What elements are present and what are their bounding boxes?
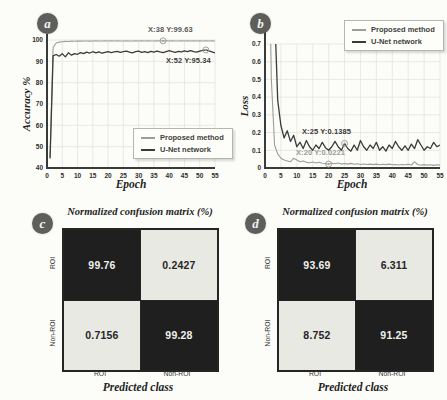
col-label-nonroi: Non-ROI: [379, 370, 406, 377]
svg-text:50: 50: [36, 143, 44, 150]
matrix-cell-nonroi-nonroi: 99.28: [141, 301, 217, 371]
figure-page: 0510152025303540455055405060708090100 a …: [0, 0, 447, 400]
annotation-unet-loss: X:25 Y:0.1385: [302, 127, 351, 136]
svg-text:70: 70: [36, 100, 44, 107]
legend-label-proposed: Proposed method: [371, 25, 435, 34]
svg-text:40: 40: [166, 172, 174, 179]
matrix-cell-roi-nonroi: 6.311: [356, 230, 432, 300]
svg-text:0.5: 0.5: [252, 76, 261, 83]
accuracy-x-axis-label: Epoch: [116, 178, 147, 190]
svg-text:45: 45: [181, 172, 189, 179]
panel-accuracy-chart: 0510152025303540455055405060708090100 a …: [0, 0, 224, 198]
row-label-roi: ROI: [264, 257, 271, 269]
panel-loss-chart: 051015202530354045505500.10.20.30.40.50.…: [224, 0, 447, 198]
loss-x-axis-label: Epoch: [337, 178, 368, 190]
panel-label-a: a: [37, 13, 58, 34]
svg-text:20: 20: [104, 172, 112, 179]
svg-text:50: 50: [420, 172, 428, 179]
svg-text:0: 0: [257, 164, 261, 171]
matrix-cell-nonroi-roi: 0.7156: [64, 301, 140, 371]
annotation-proposed-accuracy: X:38 Y:99.63: [148, 25, 193, 34]
svg-text:5: 5: [60, 172, 64, 179]
proposed-line-swatch: [352, 29, 366, 31]
unet-line-swatch: [141, 149, 155, 151]
svg-text:0.6: 0.6: [252, 58, 261, 65]
accuracy-legend: Proposed method U-Net network: [133, 128, 233, 159]
proposed-line-swatch: [141, 137, 155, 139]
panel-label-d: d: [245, 213, 266, 234]
svg-text:45: 45: [405, 172, 413, 179]
panel-confusion-matrix-d: d Normalized confusion matrix (%) 93.69 …: [224, 198, 447, 400]
matrix-cell-nonroi-roi: 8.752: [279, 301, 355, 371]
panel-confusion-matrix-c: c Normalized confusion matrix (%) 99.76 …: [0, 198, 224, 400]
col-label-roi: ROI: [94, 370, 106, 377]
loss-legend: Proposed method U-Net network: [344, 20, 444, 51]
legend-label-proposed: Proposed method: [160, 133, 224, 142]
svg-text:10: 10: [293, 172, 301, 179]
svg-text:0: 0: [263, 172, 267, 179]
svg-text:0.2: 0.2: [252, 129, 261, 136]
confusion-matrix: 99.76 0.2427 0.7156 99.28: [62, 228, 219, 372]
svg-text:35: 35: [150, 172, 158, 179]
svg-text:5: 5: [279, 172, 283, 179]
legend-item-proposed: Proposed method: [352, 25, 435, 34]
svg-text:0.1: 0.1: [252, 147, 261, 154]
legend-label-unet: U-Net network: [160, 145, 211, 154]
svg-text:40: 40: [389, 172, 397, 179]
matrix-cell-roi-roi: 99.76: [64, 230, 140, 300]
matrix-cell-nonroi-nonroi: 91.25: [356, 301, 432, 371]
matrix-cell-roi-nonroi: 0.2427: [141, 230, 217, 300]
row-label-roi: ROI: [49, 257, 56, 269]
legend-item-proposed: Proposed method: [141, 133, 224, 142]
predicted-class-label: Predicted class: [103, 381, 174, 393]
svg-text:35: 35: [373, 172, 381, 179]
svg-text:10: 10: [74, 172, 82, 179]
predicted-class-label: Predicted class: [318, 381, 389, 393]
svg-text:55: 55: [211, 172, 219, 179]
svg-text:0.4: 0.4: [252, 93, 261, 100]
matrix-cell-roi-roi: 93.69: [279, 230, 355, 300]
unet-line-swatch: [352, 41, 366, 43]
svg-text:55: 55: [436, 172, 444, 179]
svg-text:80: 80: [36, 79, 44, 86]
svg-text:0.3: 0.3: [252, 111, 261, 118]
svg-text:15: 15: [89, 172, 97, 179]
panel-label-c: c: [32, 213, 53, 234]
svg-text:90: 90: [36, 58, 44, 65]
col-label-roi: ROI: [309, 370, 321, 377]
svg-text:50: 50: [196, 172, 204, 179]
row-label-nonroi: Non-ROI: [49, 320, 56, 347]
svg-text:0.7: 0.7: [252, 40, 261, 47]
annotation-proposed-loss: X:20 Y:0.0221: [296, 148, 345, 157]
svg-text:40: 40: [36, 164, 44, 171]
svg-text:60: 60: [36, 122, 44, 129]
loss-y-axis-label: Loss: [238, 96, 250, 117]
confusion-matrix: 93.69 6.311 8.752 91.25: [277, 228, 434, 372]
svg-text:0: 0: [45, 172, 49, 179]
col-label-nonroi: Non-ROI: [164, 370, 191, 377]
confusion-matrix-title: Normalized confusion matrix (%): [67, 206, 213, 217]
svg-text:20: 20: [325, 172, 333, 179]
confusion-matrix-title: Normalized confusion matrix (%): [282, 206, 428, 217]
svg-text:15: 15: [309, 172, 317, 179]
legend-item-unet: U-Net network: [352, 37, 435, 46]
legend-label-unet: U-Net network: [371, 37, 422, 46]
svg-text:100: 100: [32, 36, 43, 43]
row-label-nonroi: Non-ROI: [264, 320, 271, 347]
panel-label-b: b: [250, 13, 271, 34]
accuracy-y-axis-label: Accuracy %: [20, 77, 32, 132]
legend-item-unet: U-Net network: [141, 145, 224, 154]
annotation-unet-accuracy: X:52 Y:95.34: [166, 56, 211, 65]
